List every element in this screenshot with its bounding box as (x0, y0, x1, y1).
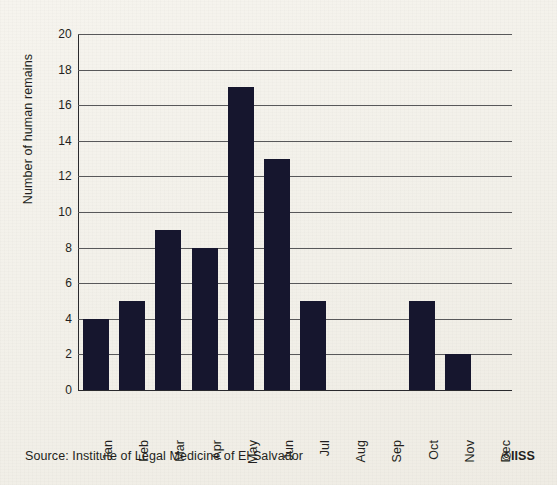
x-tick-label: Oct (427, 440, 441, 485)
bar (119, 301, 145, 390)
y-tick-label: 20 (48, 28, 72, 40)
y-tick-label: 12 (48, 170, 72, 182)
chart-figure: Number of human remains 0246810121416182… (0, 0, 557, 485)
bar (409, 301, 435, 390)
y-tick-label: 6 (48, 277, 72, 289)
source-note: Source: Institute of Legal Medicine of E… (25, 449, 303, 463)
bar (155, 230, 181, 390)
y-tick-label: 0 (48, 384, 72, 396)
y-tick-label: 2 (48, 348, 72, 360)
x-tick-label: Aug (354, 440, 368, 485)
bar (300, 301, 326, 390)
plot-area (78, 34, 512, 390)
bar (445, 354, 471, 390)
x-axis-tick-labels: JanFebMarAprMayJunJulAugSepOctNovDec (78, 392, 512, 444)
y-tick-label: 4 (48, 313, 72, 325)
x-tick-label: Sep (390, 440, 404, 485)
y-tick-label: 8 (48, 242, 72, 254)
bar (83, 319, 109, 390)
y-tick-label: 16 (48, 99, 72, 111)
y-tick-label: 10 (48, 206, 72, 218)
bar-series (78, 34, 512, 390)
y-tick-label: 14 (48, 135, 72, 147)
bar (228, 87, 254, 390)
x-tick-label: Nov (463, 440, 477, 485)
x-tick-label: Jul (318, 440, 332, 485)
axis-baseline (78, 390, 512, 391)
y-axis-tick-labels: 02468101214161820 (44, 34, 72, 390)
y-tick-label: 18 (48, 64, 72, 76)
copyright-mark: ©IISS (502, 449, 535, 463)
bar (264, 159, 290, 390)
y-axis-title: Number of human remains (21, 19, 35, 239)
bar (192, 248, 218, 390)
